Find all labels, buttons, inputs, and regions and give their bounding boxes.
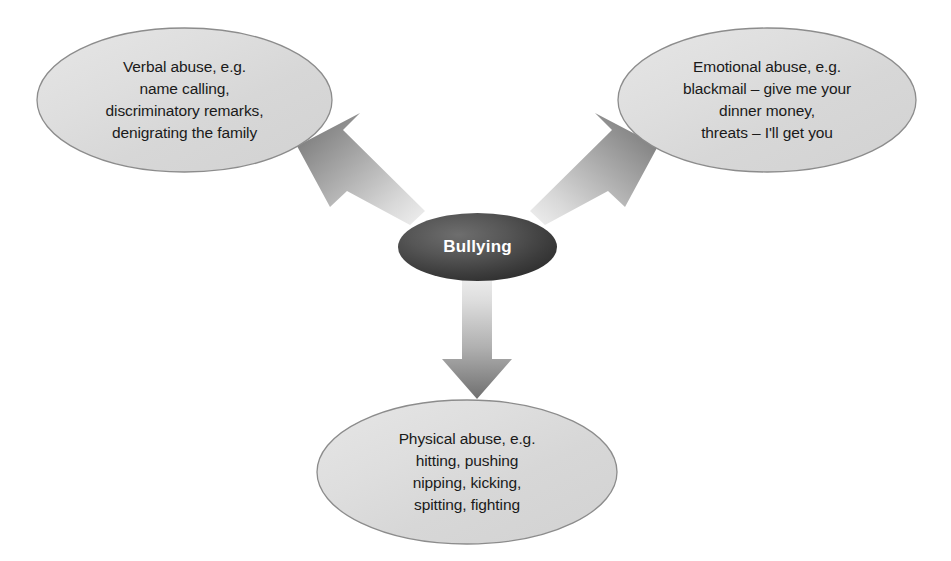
diagram-graphics (0, 0, 951, 561)
node-physical-abuse (317, 400, 617, 544)
node-bullying (398, 213, 557, 281)
node-emotional-abuse (618, 28, 916, 172)
diagram-canvas: Verbal abuse, e.g. name calling, discrim… (0, 0, 951, 561)
arrow-to-physical-abuse (442, 270, 512, 399)
node-verbal-abuse (37, 28, 332, 172)
